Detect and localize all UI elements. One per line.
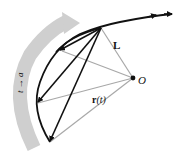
origin-point — [131, 76, 136, 81]
limit-arrow-band — [20, 12, 80, 148]
O-label: O — [138, 74, 146, 86]
diagram-canvas: t → a L O r(t) — [0, 0, 180, 155]
r-label: r(t) — [92, 94, 107, 106]
radius-line-1 — [62, 51, 133, 78]
r-arg: (t) — [96, 94, 106, 106]
band-arrowhead-icon — [62, 12, 80, 34]
chords — [38, 28, 101, 141]
L-line — [101, 28, 133, 78]
radius-line-r — [50, 78, 133, 142]
chord-3 — [50, 28, 101, 141]
L-label: L — [113, 39, 120, 51]
radius-line-2 — [38, 78, 133, 103]
limit-label: t → a — [15, 72, 25, 93]
